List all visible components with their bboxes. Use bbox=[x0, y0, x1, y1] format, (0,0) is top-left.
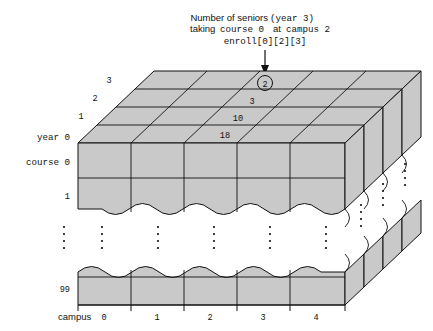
array-block-bottom bbox=[78, 200, 421, 305]
course-axis-label: course 0 bbox=[26, 157, 70, 168]
campus-tick-0: 0 bbox=[101, 313, 106, 323]
ellipsis-depth-1 bbox=[382, 183, 384, 206]
callout-line2-part3: at bbox=[273, 23, 281, 34]
year-tick-2: 2 bbox=[92, 94, 97, 104]
campus-tick-1: 1 bbox=[154, 313, 159, 323]
year-tick-3: 3 bbox=[106, 76, 111, 86]
course-label-ellipsis bbox=[63, 226, 65, 249]
array-3d-diagram: Number of seniors (year 3) taking course… bbox=[0, 0, 433, 331]
ellipsis-column-4 bbox=[325, 226, 327, 249]
callout-text: Number of seniors (year 3) taking course… bbox=[190, 12, 330, 47]
course-tick-99: 99 bbox=[60, 285, 70, 295]
cell-value-2: 18 bbox=[220, 131, 230, 141]
cell-value-1: 10 bbox=[233, 114, 243, 124]
callout-line2-part2: course 0 bbox=[220, 24, 264, 35]
campus-axis-label: campus bbox=[58, 311, 92, 322]
callout-line2-part4: campus 2 bbox=[286, 24, 330, 35]
ellipsis-depth-0 bbox=[360, 204, 362, 227]
year-axis-label: year 0 bbox=[37, 132, 70, 143]
campus-tick-3: 3 bbox=[260, 313, 265, 323]
callout-line1-part1: Number of seniors bbox=[190, 12, 268, 23]
campus-tick-4: 4 bbox=[313, 313, 318, 323]
callout-line3-expression: enroll[0][2][3] bbox=[224, 36, 307, 47]
campus-tick-2: 2 bbox=[207, 313, 212, 323]
ellipsis-column-0 bbox=[101, 226, 103, 249]
highlighted-cell-value: 2 bbox=[262, 80, 267, 90]
ellipsis-column-1 bbox=[157, 226, 159, 249]
year-tick-1: 1 bbox=[78, 112, 83, 122]
right-side-faces-bottom bbox=[345, 200, 421, 305]
ellipsis-column-3 bbox=[269, 226, 271, 249]
cell-value-0: 3 bbox=[249, 97, 254, 107]
ellipsis-column-2 bbox=[213, 226, 215, 249]
course-tick-1: 1 bbox=[65, 192, 70, 202]
campus-axis bbox=[78, 305, 345, 311]
front-face-bottom bbox=[78, 267, 345, 306]
array-block-top: 2 3 10 18 bbox=[78, 71, 421, 227]
front-face-upper bbox=[78, 143, 345, 215]
callout-line2-part1: taking bbox=[190, 23, 215, 34]
